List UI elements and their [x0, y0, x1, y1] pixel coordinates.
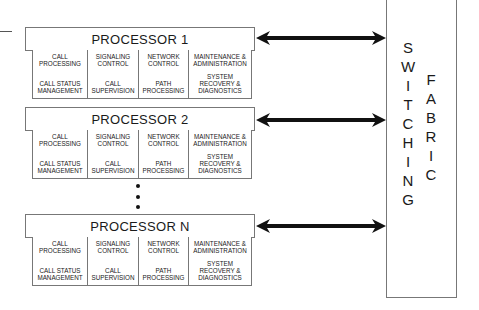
function-call-processing: CALL PROCESSING CALL STATUS MANAGEMENT	[33, 130, 88, 178]
function-maintenance: MAINTENANCE & ADMINISTRATION SYSTEM RECO…	[189, 50, 251, 98]
function-label: PATH PROCESSING	[143, 267, 185, 281]
fabric-letter: C	[400, 115, 416, 132]
function-label: CALL SUPERVISION	[92, 160, 135, 174]
fabric-letter: H	[400, 134, 416, 151]
function-label: PATH PROCESSING	[143, 80, 185, 94]
connector-stub-line	[0, 31, 12, 32]
fabric-letter: R	[423, 128, 439, 145]
function-label: NETWORK CONTROL	[147, 240, 179, 254]
function-label: MAINTENANCE & ADMINISTRATION	[193, 240, 246, 254]
fabric-letter: F	[423, 71, 439, 88]
processor-functions: CALL PROCESSING CALL STATUS MANAGEMENT S…	[32, 130, 252, 179]
processor-title: PROCESSOR N	[25, 214, 255, 238]
function-label: SIGNALING CONTROL	[96, 133, 130, 147]
function-label: CALL PROCESSING	[39, 240, 81, 254]
function-label: CALL PROCESSING	[39, 133, 81, 147]
function-signaling-control: SIGNALING CONTROL CALL SUPERVISION	[88, 237, 139, 285]
function-signaling-control: SIGNALING CONTROL CALL SUPERVISION	[88, 130, 139, 178]
function-call-processing: CALL PROCESSING CALL STATUS MANAGEMENT	[33, 237, 88, 285]
function-label: NETWORK CONTROL	[147, 53, 179, 67]
fabric-letter: C	[423, 166, 439, 183]
function-label: CALL STATUS MANAGEMENT	[37, 267, 82, 281]
switching-fabric-box: S W I T C H I N G F A B R I C	[386, 0, 457, 298]
function-label: MAINTENANCE & ADMINISTRATION	[193, 133, 246, 147]
function-network-control: NETWORK CONTROL PATH PROCESSING	[139, 237, 189, 285]
function-label: NETWORK CONTROL	[147, 133, 179, 147]
bidirectional-arrow-icon	[256, 219, 386, 233]
processor-title: PROCESSOR 1	[25, 27, 255, 51]
function-network-control: NETWORK CONTROL PATH PROCESSING	[139, 130, 189, 178]
fabric-letter: G	[400, 191, 416, 208]
fabric-letter: I	[400, 153, 416, 170]
function-label: CALL PROCESSING	[39, 53, 81, 67]
function-label: CALL SUPERVISION	[92, 267, 135, 281]
fabric-letter: A	[423, 90, 439, 107]
function-label: CALL SUPERVISION	[92, 80, 135, 94]
fabric-letter: I	[423, 147, 439, 164]
fabric-letter: T	[400, 96, 416, 113]
fabric-letter: W	[400, 58, 416, 75]
function-network-control: NETWORK CONTROL PATH PROCESSING	[139, 50, 189, 98]
bidirectional-arrow-icon	[256, 113, 386, 127]
function-label: SYSTEM RECOVERY & DIAGNOSTICS	[198, 73, 241, 94]
function-label: CALL STATUS MANAGEMENT	[37, 160, 82, 174]
processor-functions: CALL PROCESSING CALL STATUS MANAGEMENT S…	[32, 237, 252, 286]
fabric-letter: B	[423, 109, 439, 126]
fabric-letter: S	[400, 39, 416, 56]
processor-functions: CALL PROCESSING CALL STATUS MANAGEMENT S…	[32, 50, 252, 99]
function-maintenance: MAINTENANCE & ADMINISTRATION SYSTEM RECO…	[189, 237, 251, 285]
function-call-processing: CALL PROCESSING CALL STATUS MANAGEMENT	[33, 50, 88, 98]
function-label: SYSTEM RECOVERY & DIAGNOSTICS	[198, 260, 241, 281]
function-maintenance: MAINTENANCE & ADMINISTRATION SYSTEM RECO…	[189, 130, 251, 178]
fabric-letter: I	[400, 77, 416, 94]
fabric-letter: N	[400, 172, 416, 189]
function-label: SIGNALING CONTROL	[96, 53, 130, 67]
function-signaling-control: SIGNALING CONTROL CALL SUPERVISION	[88, 50, 139, 98]
function-label: PATH PROCESSING	[143, 160, 185, 174]
function-label: MAINTENANCE & ADMINISTRATION	[193, 53, 246, 67]
bidirectional-arrow-icon	[256, 31, 386, 45]
function-label: SYSTEM RECOVERY & DIAGNOSTICS	[198, 153, 241, 174]
ellipsis-dot	[136, 195, 140, 199]
ellipsis-dot	[136, 184, 140, 188]
processor-title: PROCESSOR 2	[25, 107, 255, 131]
function-label: CALL STATUS MANAGEMENT	[37, 80, 82, 94]
ellipsis-dot	[136, 205, 140, 209]
function-label: SIGNALING CONTROL	[96, 240, 130, 254]
